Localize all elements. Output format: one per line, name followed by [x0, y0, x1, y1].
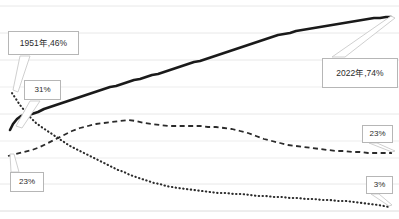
annotation-start-solid: 31%	[24, 80, 61, 100]
series-dashed-hump	[8, 120, 392, 156]
annotation-start-dashed: 23%	[10, 172, 44, 192]
annotation-end-solid: 2022年,74%	[322, 58, 398, 88]
annotation-start-urban: 1951年,46%	[8, 31, 79, 55]
annotation-end-dashed: 23%	[362, 125, 393, 143]
annotation-end-dotted: 3%	[366, 176, 393, 194]
chart-container: 1951年,46% 31% 2022年,74% 23% 23% 3%	[0, 0, 399, 219]
